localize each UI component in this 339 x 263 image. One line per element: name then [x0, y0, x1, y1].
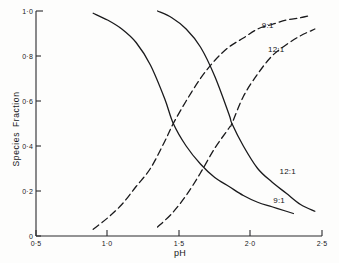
curve-label-2: 12:1	[280, 166, 296, 175]
y-tick-label-4: 0·8	[14, 53, 33, 60]
curve-label-0: 9:1	[262, 20, 274, 29]
y-tick-label-0: 0	[22, 233, 33, 240]
y-axis-title: Species Fraction	[11, 79, 21, 179]
y-tick-label-5: 1·0	[14, 8, 33, 15]
y-tick-label-1: 0·2	[14, 188, 33, 195]
x-tick-label-4: 2·5	[317, 240, 328, 247]
x-axis-ticks	[36, 230, 322, 236]
x-tick-label-1: 1·0	[102, 240, 113, 247]
x-tick-label-0: 0·5	[31, 240, 42, 247]
curve-label-3: 9:1	[273, 196, 285, 205]
curve-label-1: 12:1	[268, 45, 284, 54]
species-fraction-ph-chart: 0·5 1·0 1·5 2·0 2·5 0 0·2 0·4 0·6 0·8 1·…	[0, 0, 339, 263]
x-axis-title: pH	[174, 248, 186, 258]
plot-area	[0, 0, 339, 263]
x-tick-label-2: 1·5	[174, 240, 185, 247]
y-axis-ticks	[36, 11, 43, 236]
x-tick-label-3: 2·0	[245, 240, 256, 247]
